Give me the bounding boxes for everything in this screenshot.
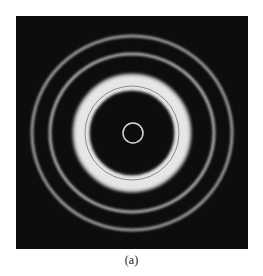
bright-band bbox=[82, 83, 182, 183]
bright-band-inner-line bbox=[85, 86, 179, 180]
diffraction-pattern-figure bbox=[16, 16, 248, 249]
figure-caption: (a) bbox=[0, 253, 263, 268]
outer-ring bbox=[32, 36, 232, 230]
center-ring bbox=[123, 123, 143, 143]
ring-pattern bbox=[16, 16, 248, 249]
